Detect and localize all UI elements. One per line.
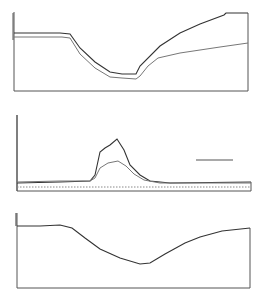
lower-trace [17, 161, 251, 183]
panel-bottom [16, 213, 250, 288]
upper-trace [17, 139, 251, 183]
upper-trace [14, 13, 248, 74]
trace [17, 225, 250, 264]
lower-trace [14, 37, 248, 79]
panel-top [13, 12, 248, 91]
panel-middle [17, 115, 251, 191]
chart-figure [0, 0, 265, 302]
